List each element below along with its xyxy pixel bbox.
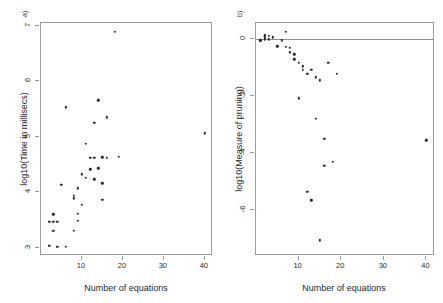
data-point bbox=[64, 245, 66, 247]
x-tick-label: 30 bbox=[379, 262, 387, 270]
data-point bbox=[297, 62, 299, 64]
data-point bbox=[101, 199, 103, 201]
data-point bbox=[77, 187, 79, 189]
data-point bbox=[319, 239, 321, 241]
data-point bbox=[297, 97, 299, 99]
y-tick-label: 0 bbox=[239, 36, 247, 40]
data-point bbox=[93, 122, 95, 124]
data-point bbox=[310, 68, 312, 70]
data-point bbox=[93, 178, 95, 180]
data-point bbox=[85, 177, 87, 179]
data-point bbox=[89, 157, 91, 159]
x-tick-mark bbox=[163, 256, 164, 260]
data-point bbox=[323, 165, 325, 167]
data-point bbox=[285, 30, 287, 32]
y-tick-label: 7 bbox=[24, 23, 32, 27]
data-point bbox=[310, 199, 312, 201]
x-tick-label: 20 bbox=[118, 262, 126, 270]
data-point bbox=[306, 190, 308, 192]
data-point bbox=[89, 168, 91, 170]
y-tick-mark bbox=[250, 38, 254, 39]
y-tick-mark bbox=[250, 209, 254, 210]
x-tick-mark bbox=[425, 256, 426, 260]
data-point bbox=[336, 72, 338, 74]
data-point bbox=[56, 220, 58, 222]
data-point bbox=[118, 155, 120, 157]
reference-line bbox=[256, 39, 433, 40]
data-point bbox=[73, 230, 75, 232]
data-point bbox=[289, 47, 291, 49]
data-point bbox=[64, 106, 66, 108]
panel-b-xlabel: Number of equations bbox=[302, 283, 386, 293]
data-point bbox=[105, 116, 107, 118]
data-point bbox=[97, 167, 99, 169]
y-tick-mark bbox=[250, 95, 254, 96]
panel-b-plot-frame bbox=[255, 22, 434, 255]
figure-container: a) 1020304034567 Number of equations log… bbox=[0, 0, 443, 303]
data-point bbox=[77, 220, 79, 222]
y-tick-mark bbox=[35, 191, 39, 192]
data-point bbox=[268, 35, 270, 37]
data-point bbox=[319, 79, 321, 81]
y-tick-label: -6 bbox=[239, 206, 247, 213]
data-point bbox=[52, 230, 54, 232]
data-point bbox=[48, 245, 50, 247]
data-point bbox=[259, 40, 261, 42]
data-point bbox=[56, 245, 58, 247]
data-point bbox=[77, 213, 79, 215]
data-point bbox=[285, 46, 287, 48]
panel-a: a) 1020304034567 Number of equations log… bbox=[0, 0, 221, 303]
data-point bbox=[204, 132, 206, 134]
y-tick-mark bbox=[35, 25, 39, 26]
panel-b-ylabel: log10(Measure of pruning) bbox=[234, 86, 244, 192]
data-point bbox=[73, 197, 75, 199]
data-point bbox=[306, 72, 308, 74]
panel-a-xlabel: Number of equations bbox=[84, 283, 168, 293]
data-point bbox=[327, 62, 329, 64]
data-point bbox=[332, 160, 334, 162]
data-point bbox=[52, 220, 54, 222]
data-point bbox=[81, 204, 83, 206]
data-point bbox=[105, 157, 107, 159]
x-tick-label: 10 bbox=[293, 262, 301, 270]
x-tick-label: 40 bbox=[421, 262, 429, 270]
x-tick-mark bbox=[340, 256, 341, 260]
panel-b-tag: b) bbox=[236, 11, 243, 17]
panel-a-data-area bbox=[41, 23, 211, 254]
panel-a-ylabel: log10(Time in millisecs) bbox=[19, 92, 29, 186]
data-point bbox=[323, 138, 325, 140]
x-tick-mark bbox=[81, 256, 82, 260]
data-point bbox=[302, 65, 304, 67]
data-point bbox=[114, 31, 116, 33]
data-point bbox=[60, 184, 62, 186]
data-point bbox=[97, 99, 99, 101]
data-point bbox=[293, 53, 295, 55]
data-point bbox=[302, 68, 304, 70]
data-point bbox=[81, 173, 83, 175]
x-tick-label: 10 bbox=[77, 262, 85, 270]
panel-b: b) 102030400-2-4-6 Number of equations l… bbox=[222, 0, 443, 303]
data-point bbox=[425, 139, 427, 141]
data-point bbox=[314, 118, 316, 120]
panel-a-tag: a) bbox=[21, 11, 28, 17]
x-tick-label: 30 bbox=[159, 262, 167, 270]
y-tick-mark bbox=[250, 152, 254, 153]
x-tick-mark bbox=[383, 256, 384, 260]
y-tick-mark bbox=[35, 247, 39, 248]
x-tick-label: 40 bbox=[200, 262, 208, 270]
data-point bbox=[93, 157, 95, 159]
x-tick-label: 20 bbox=[336, 262, 344, 270]
panel-a-plot-frame bbox=[40, 22, 212, 255]
y-tick-label: 3 bbox=[24, 245, 32, 249]
y-tick-mark bbox=[35, 80, 39, 81]
y-tick-label: 4 bbox=[24, 189, 32, 193]
y-tick-mark bbox=[35, 136, 39, 137]
data-point bbox=[276, 45, 278, 47]
data-point bbox=[101, 156, 103, 158]
y-tick-label: 6 bbox=[24, 78, 32, 82]
data-point bbox=[101, 182, 103, 184]
data-point bbox=[48, 220, 50, 222]
data-point bbox=[314, 76, 316, 78]
x-tick-mark bbox=[122, 256, 123, 260]
data-point bbox=[52, 213, 54, 215]
